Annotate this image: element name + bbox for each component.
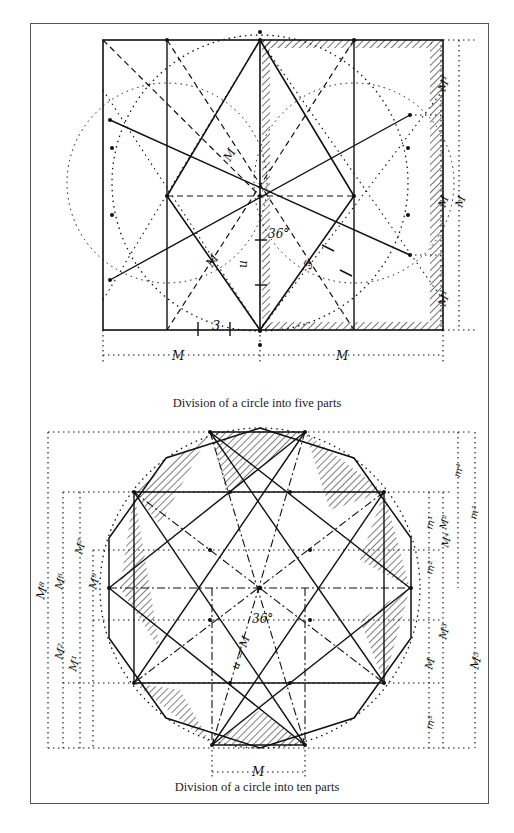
label-right-m3: M³ [436,622,453,641]
label-left-m7: M⁷ [72,537,89,557]
label-right-m4: M⁴ [439,532,454,550]
label-m-bottom-b: M [251,765,265,779]
label-right-mm1: m¹ [423,515,437,531]
label-u-m: u = M [229,633,253,671]
caption-five-parts: Division of a circle into five parts [0,396,514,411]
label-u: u [236,260,250,268]
label-m-bottom-right: M [335,349,349,363]
label-right-m5: M⁵ [467,650,485,671]
label-right-mm3: m³ [423,715,437,731]
label-angle-36: 36° [268,227,289,241]
label-right-mm5: m⁵ [467,505,481,521]
label-right-mm2: m² [423,560,437,576]
label-left-m8: M⁸ [33,580,51,601]
label-three: 3 [212,318,220,333]
label-left-m2: M² [52,642,69,661]
label-right-mm4: m⁴ [451,463,465,479]
label-left-m6: M⁶ [52,572,69,592]
label-right-m2: M² [437,514,452,532]
label-m-upper: M [220,145,239,164]
label-right-m-outer: M [452,193,469,210]
label-angle-36-b: 36° [252,612,273,626]
figure-ten-parts [48,428,475,780]
label-m-diag: M [202,251,221,270]
caption-ten-parts: Division of a circle into ten parts [0,780,514,795]
label-right-m: M [422,656,438,672]
geometry-drawings: M M 36° u 5 3 M M M¹ M M¹ M [0,0,514,833]
label-m-bottom-left: M [171,349,185,363]
label-left-m1: M¹ [66,654,83,673]
figure-five-parts [67,30,475,362]
